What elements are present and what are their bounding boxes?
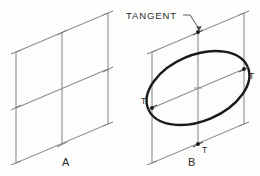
tangent-label-right: T — [249, 71, 255, 81]
tangent-callout: TANGENT — [126, 10, 202, 32]
panel-b-label: B — [188, 156, 196, 168]
panel-a-label: A — [62, 156, 70, 168]
panel-b: T T T B — [135, 11, 260, 168]
panel-a: A — [11, 11, 113, 168]
tangent-callout-label: TANGENT — [126, 10, 177, 21]
drawing-svg: A — [0, 0, 260, 176]
tangent-label-bottom: T — [202, 145, 208, 155]
tangent-label-left: T — [141, 96, 147, 106]
technical-drawing-canvas: A — [0, 0, 260, 176]
